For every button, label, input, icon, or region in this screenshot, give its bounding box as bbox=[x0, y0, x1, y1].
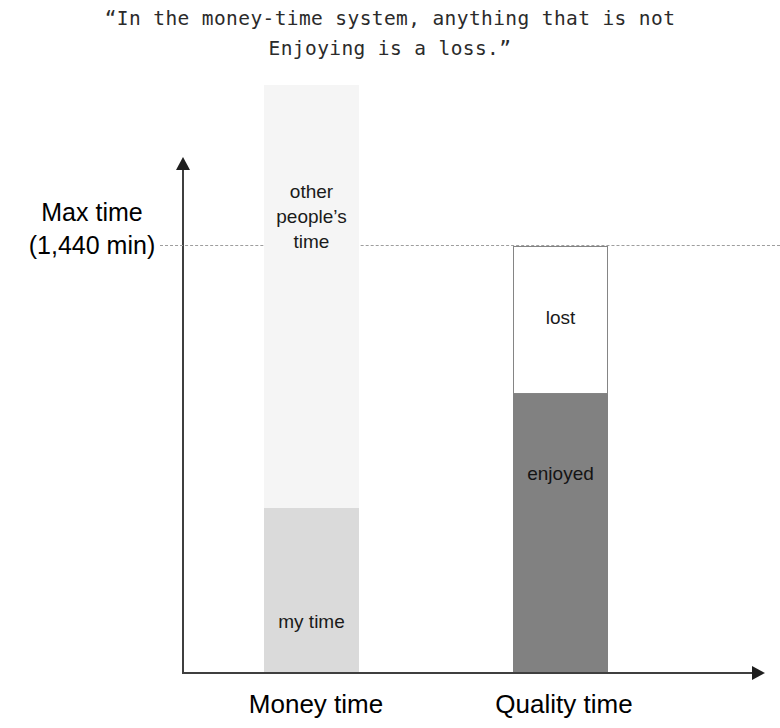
x-axis-arrow-icon bbox=[752, 666, 765, 680]
bar-segment-enjoyed: enjoyed bbox=[513, 394, 608, 672]
bar-segment-lost: lost bbox=[513, 246, 608, 394]
bar-segment-label-lost: lost bbox=[546, 305, 576, 330]
bar-segment-other-peoples-time: other people’s time bbox=[264, 85, 359, 508]
bar-segment-label-other-peoples-time: other people’s time bbox=[276, 179, 346, 254]
y-axis-annotation-line-2: (1,440 min) bbox=[8, 229, 176, 262]
y-axis-arrow-icon bbox=[176, 157, 190, 170]
x-axis-category-label-quality-time: Quality time bbox=[466, 688, 662, 720]
x-axis-category-label-money-time: Money time bbox=[226, 688, 406, 720]
bar-segment-label-my-time: my time bbox=[278, 609, 345, 634]
bar-segment-label-enjoyed: enjoyed bbox=[527, 461, 594, 486]
y-axis-annotation: Max time (1,440 min) bbox=[8, 196, 176, 262]
bar-segment-my-time: my time bbox=[264, 508, 359, 672]
chart-plot-area: Max time (1,440 min) other people’s time… bbox=[0, 0, 780, 728]
y-axis-line bbox=[182, 168, 184, 674]
max-time-reference-line bbox=[160, 245, 780, 246]
y-axis-annotation-line-1: Max time bbox=[8, 196, 176, 229]
x-axis-line bbox=[182, 672, 755, 674]
